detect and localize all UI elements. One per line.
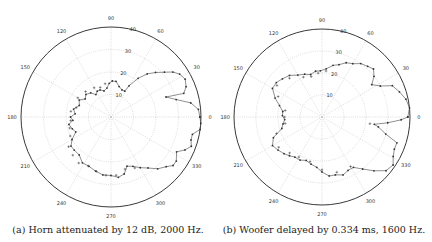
angle-tick-label: 210 [233,162,243,168]
series-measured [272,62,411,177]
polar-plot-b: 030609012015018021024027030033010203040 [216,0,432,242]
radial-tick-label: 30 [336,49,342,55]
angle-tick-label: 180 [7,114,17,120]
radial-tick-label: 10 [326,92,332,98]
angle-tick-label: 0 [417,114,420,120]
radial-tick-label: 20 [331,71,337,77]
radial-tick-label: 40 [340,28,346,34]
angle-tick-label: 30 [403,65,409,71]
polar-plot-a-panel: 030609012015018021024027030033010203040 … [0,0,216,242]
angle-tick-label: 240 [269,198,279,204]
angle-tick-label: 120 [269,30,279,36]
angle-tick-label: 90 [319,17,325,23]
series-measured [68,71,202,178]
series-predicted [275,70,371,174]
polar-grid: 030609012015018021024027030033010203040 [7,15,211,219]
angle-tick-label: 30 [194,64,200,70]
angle-tick-label: 270 [106,213,116,219]
caption-a: (a) Horn attenuated by 12 dB, 2000 Hz. [0,224,216,235]
angle-tick-label: 330 [192,163,202,169]
angle-tick-label: 150 [233,65,243,71]
angle-tick-label: 180 [220,114,230,120]
angle-tick-label: 300 [366,198,376,204]
radial-tick-label: 30 [125,48,131,54]
series-predicted [67,82,136,176]
radial-tick-label: 10 [115,92,121,98]
radial-tick-label: 40 [130,26,136,32]
angle-tick-label: 120 [57,28,67,34]
angle-tick-label: 270 [317,211,327,217]
angle-tick-label: 60 [157,28,163,34]
polar-grid: 030609012015018021024027030033010203040 [220,17,420,217]
angle-tick-label: 0 [208,114,211,120]
caption-b: (b) Woofer delayed by 0.334 ms, 1600 Hz. [216,224,432,235]
angle-tick-label: 150 [20,64,30,70]
angle-tick-label: 60 [367,30,373,36]
polar-plot-a: 030609012015018021024027030033010203040 [0,0,216,242]
angle-tick-label: 240 [57,200,67,206]
angle-tick-label: 330 [401,162,411,168]
angle-tick-label: 210 [20,163,30,169]
angle-tick-label: 300 [156,200,166,206]
polar-plot-b-panel: 030609012015018021024027030033010203040 … [216,0,432,242]
angle-tick-label: 90 [108,15,114,21]
radial-tick-label: 20 [120,70,126,76]
